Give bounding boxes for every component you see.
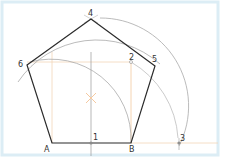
pentagon-construction-diagram: A B 1 2 3 4 5 6: [0, 0, 229, 166]
label-1: 1: [93, 133, 98, 142]
label-6: 6: [18, 60, 23, 69]
label-a: A: [44, 145, 50, 154]
label-5: 5: [152, 55, 157, 64]
frame-border: [2, 2, 218, 155]
label-4: 4: [88, 9, 93, 18]
label-b: B: [129, 145, 135, 154]
label-2: 2: [129, 53, 134, 62]
label-3: 3: [180, 134, 185, 143]
diagram-frame: A B 1 2 3 4 5 6: [0, 0, 229, 166]
